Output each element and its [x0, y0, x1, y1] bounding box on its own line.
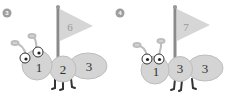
flag-number: 7 [183, 21, 189, 33]
segment-number-2: 2 [60, 62, 67, 77]
pole-top-icon [173, 5, 177, 9]
antenna-icon [134, 39, 165, 56]
pole-top-icon [56, 5, 60, 9]
number-badge: 4 [116, 9, 125, 18]
segment-number-3: 3 [202, 61, 209, 76]
flag-pole-icon [57, 6, 60, 58]
ant-puzzles: 3 6 [0, 0, 225, 111]
number-badge: 3 [3, 9, 12, 18]
flag-number: 6 [67, 21, 73, 33]
ant-puzzle-1: 3 6 [3, 5, 108, 90]
flag: 6 [56, 5, 93, 58]
segment-number-3: 3 [86, 59, 93, 74]
ant-puzzle-2: 4 7 1 3 3 [116, 5, 224, 91]
flag-triangle-icon [60, 9, 93, 41]
flag-triangle-icon [177, 9, 210, 41]
flag-pole-icon [174, 6, 177, 58]
segment-number-2: 3 [177, 61, 184, 76]
segment-number-1: 1 [36, 60, 43, 75]
flag: 7 [173, 5, 210, 58]
segment-number-1: 1 [153, 64, 160, 79]
